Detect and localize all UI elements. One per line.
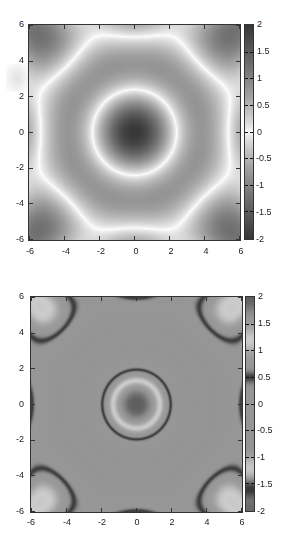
colorbar-tick-label: 1 bbox=[258, 345, 263, 355]
heatmap-plot-bottom bbox=[30, 296, 243, 513]
heatmap-panel-top: 6 4 2 0 -2 -4 -6 -6 -4 -2 0 2 4 6 2 1.5 … bbox=[0, 0, 288, 272]
colorbar-tick-label: 0.5 bbox=[258, 372, 271, 382]
xtick-label: 2 bbox=[161, 246, 181, 256]
colorbar-tick-label: -1.5 bbox=[257, 479, 273, 489]
colorbar-tick-label: -0.5 bbox=[256, 153, 272, 163]
ytick-label: -4 bbox=[2, 470, 24, 480]
ytick-label: -6 bbox=[2, 234, 24, 244]
xtick-label: -4 bbox=[56, 246, 76, 256]
xtick-label: -2 bbox=[91, 246, 111, 256]
colorbar-tick-label: -2 bbox=[256, 234, 264, 244]
colorbar-bottom bbox=[245, 296, 255, 512]
ytick-label: 6 bbox=[2, 19, 24, 29]
colorbar-tick-label: -1.5 bbox=[256, 207, 272, 217]
xtick-label: 0 bbox=[127, 517, 147, 527]
colorbar-tick-label: 2 bbox=[257, 19, 262, 29]
ytick-label: -6 bbox=[2, 506, 24, 516]
ytick-label: 2 bbox=[2, 363, 24, 373]
ytick-label: 0 bbox=[2, 127, 24, 137]
colorbar-tick-label: 0.5 bbox=[257, 100, 270, 110]
ytick-label: 0 bbox=[2, 399, 24, 409]
colorbar-tick-label: 1.5 bbox=[257, 46, 270, 56]
colorbar-tick-label: -0.5 bbox=[257, 425, 273, 435]
ytick-label: 6 bbox=[2, 291, 24, 301]
colorbar-tick-label: -1 bbox=[256, 180, 264, 190]
xtick-label: -2 bbox=[92, 517, 112, 527]
xtick-label: 0 bbox=[126, 246, 146, 256]
colorbar-top bbox=[244, 24, 254, 240]
colorbar-tick-label: 2 bbox=[258, 291, 263, 301]
colorbar-tick-label: 0 bbox=[258, 399, 263, 409]
colorbar-tick-label: -2 bbox=[257, 506, 265, 516]
xtick-label: 4 bbox=[197, 517, 217, 527]
xtick-label: 2 bbox=[162, 517, 182, 527]
ytick-label: -4 bbox=[2, 198, 24, 208]
xtick-label: -4 bbox=[57, 517, 77, 527]
ytick-label: 4 bbox=[2, 327, 24, 337]
xtick-label: 6 bbox=[232, 517, 252, 527]
colorbar-tick-label: 0 bbox=[257, 127, 262, 137]
xtick-label: -6 bbox=[21, 517, 41, 527]
xtick-label: 4 bbox=[196, 246, 216, 256]
colorbar-tick-label: 1 bbox=[257, 73, 262, 83]
ytick-label: -2 bbox=[2, 434, 24, 444]
ytick-label: -2 bbox=[2, 162, 24, 172]
scan-smudge bbox=[6, 64, 28, 92]
colorbar-tick-label: 1.5 bbox=[258, 318, 271, 328]
ytick-label: 4 bbox=[2, 55, 24, 65]
xtick-label: 6 bbox=[231, 246, 251, 256]
xtick-label: -6 bbox=[20, 246, 40, 256]
ytick-label: 2 bbox=[2, 91, 24, 101]
colorbar-tick-label: -1 bbox=[257, 452, 265, 462]
heatmap-panel-bottom: 6 4 2 0 -2 -4 -6 -6 -4 -2 0 2 4 6 2 1.5 … bbox=[0, 272, 288, 543]
heatmap-plot-top bbox=[28, 24, 241, 241]
